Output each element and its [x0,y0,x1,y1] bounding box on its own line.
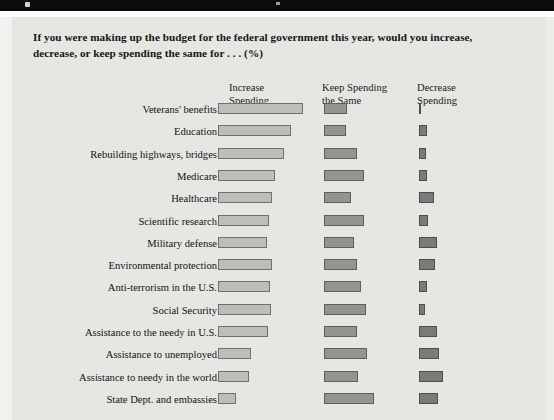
bar-decrease-spending [419,393,438,404]
chart-panel: If you were making up the budget for the… [0,17,554,420]
chart-row: Education [0,125,554,147]
bar-keep-spending-same [324,304,366,315]
row-label: Rebuilding highways, bridges [0,148,217,161]
bar-decrease-spending [419,237,437,248]
bar-decrease-spending [419,259,435,270]
bar-increase-spending [218,326,268,337]
row-label: Social Security [0,304,217,317]
bar-increase-spending [218,259,272,270]
bar-decrease-spending [419,304,425,315]
bar-keep-spending-same [324,192,351,203]
bar-increase-spending [218,371,249,382]
bar-increase-spending [218,393,236,404]
bar-increase-spending [218,192,272,203]
bar-keep-spending-same [324,170,364,181]
chart-row: Assistance to unemployed [0,348,554,370]
bar-increase-spending [218,348,251,359]
row-label: Assistance to the needy in U.S. [0,326,217,339]
chart-row: Veterans' benefits [0,103,554,125]
bar-keep-spending-same [324,281,361,292]
row-label: Veterans' benefits [0,103,217,116]
chart-row: Medicare [0,170,554,192]
row-label: Anti-terrorism in the U.S. [0,281,217,294]
chart-row: Social Security [0,304,554,326]
bar-decrease-spending [419,170,427,181]
bar-keep-spending-same [324,148,357,159]
bar-decrease-spending [419,192,434,203]
bar-keep-spending-same [324,125,346,136]
top-band-artifact-left [25,2,30,7]
bar-increase-spending [218,237,267,248]
bar-increase-spending [218,304,271,315]
bar-keep-spending-same [324,393,374,404]
bar-decrease-spending [419,215,428,226]
bar-increase-spending [218,148,284,159]
bar-increase-spending [218,281,270,292]
page-top-band [0,0,554,11]
chart-row: Assistance to the needy in U.S. [0,326,554,348]
bar-keep-spending-same [324,371,358,382]
bar-decrease-spending [419,371,443,382]
bar-keep-spending-same [324,326,357,337]
row-label: State Dept. and embassies [0,393,217,406]
bar-keep-spending-same [324,215,364,226]
bar-keep-spending-same [324,259,357,270]
bar-decrease-spending [419,125,427,136]
bar-keep-spending-same [324,237,354,248]
chart-rows: Veterans' benefitsEducationRebuilding hi… [0,103,554,420]
bar-decrease-spending [419,148,426,159]
chart-row: Rebuilding highways, bridges [0,148,554,170]
chart-row: Assistance to needy in the world [0,371,554,393]
row-label: Education [0,125,217,138]
chart-row: State Dept. and embassies [0,393,554,415]
chart-row: Military defense [0,237,554,259]
chart-row: Scientific research [0,215,554,237]
bar-increase-spending [218,103,303,114]
row-label: Environmental protection [0,259,217,272]
bar-increase-spending [218,215,269,226]
chart-row: Environmental protection [0,259,554,281]
row-label: Assistance to unemployed [0,348,217,361]
top-band-artifact-center [276,2,280,5]
bar-decrease-spending [419,103,421,114]
chart-row: Healthcare [0,192,554,214]
bar-increase-spending [218,170,275,181]
bar-increase-spending [218,125,291,136]
row-label: Military defense [0,237,217,250]
bar-keep-spending-same [324,348,367,359]
chart-row: Anti-terrorism in the U.S. [0,281,554,303]
chart-title: If you were making up the budget for the… [33,30,493,61]
row-label: Healthcare [0,192,217,205]
row-label: Medicare [0,170,217,183]
bar-keep-spending-same [324,103,347,114]
bar-decrease-spending [419,326,437,337]
row-label: Assistance to needy in the world [0,371,217,384]
bar-decrease-spending [419,348,439,359]
row-label: Scientific research [0,215,217,228]
bar-decrease-spending [419,281,427,292]
chart-page: If you were making up the budget for the… [0,0,554,420]
